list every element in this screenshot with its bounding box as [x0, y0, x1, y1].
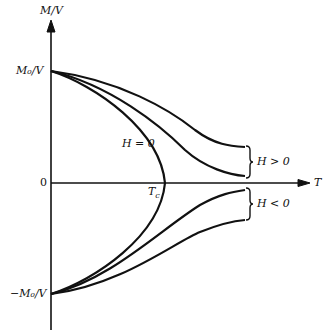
brace-h-positive-icon: [246, 146, 253, 178]
y-axis-arrow-icon: [47, 20, 55, 32]
brace-h-negative-icon: [246, 188, 253, 220]
y-axis-label: M/V: [40, 4, 63, 17]
bottom-value-label: −M₀/V: [10, 287, 47, 300]
origin-label: 0: [40, 176, 47, 189]
curve-zero-field-label: H = 0: [122, 137, 155, 150]
magnetization-vs-temperature-diagram: M/V T 0 M₀/V −M₀/V Tc H = 0 H > 0 H < 0: [0, 0, 328, 335]
x-axis-label: T: [314, 176, 321, 189]
curve-h-negative-weak: [51, 190, 245, 294]
curve-h-positive-weak: [51, 71, 245, 176]
group-positive-label: H > 0: [257, 155, 290, 168]
group-negative-label: H < 0: [257, 197, 290, 210]
x-axis-arrow-icon: [298, 180, 310, 187]
curve-h-zero-upper: [51, 71, 165, 183]
top-value-label: M₀/V: [16, 64, 43, 77]
critical-temp-label: Tc: [148, 185, 160, 200]
